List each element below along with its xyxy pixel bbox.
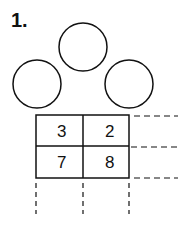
- grid-cell-r1c1: 3: [57, 122, 66, 141]
- right-circle[interactable]: [105, 60, 153, 108]
- multiplication-diagram: 3 2 7 8: [0, 0, 191, 229]
- grid-cell-r1c2: 2: [105, 122, 114, 141]
- grid-cell-r2c1: 7: [57, 153, 66, 172]
- grid-cell-r2c2: 8: [105, 153, 114, 172]
- left-circle[interactable]: [13, 60, 61, 108]
- top-circle[interactable]: [59, 23, 107, 71]
